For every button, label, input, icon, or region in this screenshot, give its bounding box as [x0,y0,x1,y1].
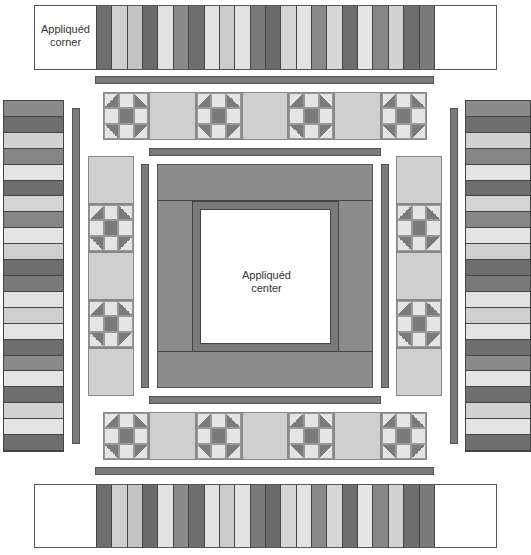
block-patch [426,316,441,331]
left-outer-sashing [72,108,80,444]
appliqued-center: Appliquéd center [200,209,331,344]
fabric-stripe [281,6,296,69]
fabric-stripe [466,340,530,356]
fabric-stripe [220,6,235,69]
fabric-stripe [466,260,530,276]
block-patch [226,93,241,108]
block-patch [412,332,427,347]
fabric-stripe [327,485,342,547]
block-patch [197,413,212,428]
block-patch [134,444,149,459]
fabric-stripe [466,419,530,435]
fabric-stripe [466,244,530,260]
fabric-stripe [128,6,143,69]
fabric-stripe [466,133,530,149]
fabric-stripe [189,485,204,547]
fabric-stripe [4,387,63,403]
block-patch [382,444,397,459]
block-patch [396,124,411,139]
right-outer-sashing [450,108,458,444]
fabric-stripe [235,485,250,547]
block-patch [412,316,427,331]
fabric-stripe [128,485,143,547]
center-inner-frame: Appliquéd center [192,201,339,352]
plain-block [242,92,288,140]
block-patch [411,428,426,443]
center-label-line1: Appliquéd [201,269,332,282]
block-patch [89,220,104,235]
center-label-line2: center [201,282,332,295]
plain-block [396,252,442,300]
plain-block [334,412,380,460]
fabric-stripe [389,6,404,69]
block-patch [104,444,119,459]
block-patch [319,124,334,139]
top-inner-sashing [149,148,381,156]
block-patch [412,205,427,220]
block-patch [289,124,304,139]
block-patch [134,108,149,123]
block-patch [412,220,427,235]
block-patch [304,108,319,123]
fabric-stripe [174,485,189,547]
fabric-stripe [466,228,530,244]
fabric-stripe [4,228,63,244]
block-patch [104,332,119,347]
fabric-stripe [343,6,358,69]
plain-block [242,412,288,460]
fabric-stripe [143,485,158,547]
fabric-stripe [312,6,327,69]
shoo-fly-block [288,412,334,460]
block-patch [426,301,441,316]
block-patch [226,108,241,123]
block-patch [304,93,319,108]
fabric-stripe [466,165,530,181]
right-border-strip [465,100,531,452]
block-patch [118,301,133,316]
block-patch [104,413,119,428]
shoo-fly-block [103,92,149,140]
block-patch [119,124,134,139]
block-patch [396,93,411,108]
fabric-stripe [266,6,281,69]
fabric-stripe [297,485,312,547]
shoo-fly-block [88,204,134,252]
block-patch [89,301,104,316]
block-patch [289,93,304,108]
shoo-fly-block [103,412,149,460]
fabric-stripe [4,356,63,372]
shoo-fly-block [396,204,442,252]
appliqued-corner-bottom-right [435,485,496,547]
shoo-fly-block [396,300,442,348]
fabric-stripe [235,6,250,69]
fabric-stripe [4,101,63,117]
block-patch [118,205,133,220]
fabric-stripe [174,6,189,69]
block-patch [89,236,104,251]
fabric-stripe [4,212,63,228]
shoo-fly-block [196,412,242,460]
block-patch [226,444,241,459]
block-patch [104,220,119,235]
fabric-stripe [466,117,530,133]
block-patch [211,124,226,139]
left-border-strip [3,100,64,452]
block-patch [89,332,104,347]
block-patch [319,108,334,123]
fabric-stripe [4,117,63,133]
top-stripes [96,6,435,69]
block-patch [397,316,412,331]
block-patch [211,444,226,459]
block-patch [397,220,412,235]
fabric-stripe [251,6,266,69]
appliqued-corner-bottom-left [35,485,96,547]
block-patch [412,236,427,251]
shoo-fly-block [196,92,242,140]
center-medallion: Appliquéd center [157,164,373,388]
fabric-stripe [420,6,435,69]
block-patch [397,332,412,347]
block-patch [289,413,304,428]
bottom-border-strip [34,484,497,548]
fabric-stripe [358,6,373,69]
fabric-stripe [466,101,530,117]
